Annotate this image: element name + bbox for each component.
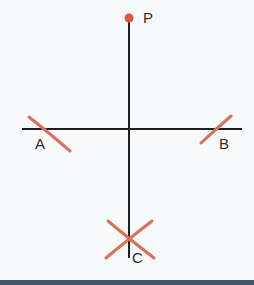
point-p bbox=[125, 14, 134, 23]
label-c: C bbox=[132, 250, 143, 265]
label-a: A bbox=[35, 136, 45, 151]
label-p: P bbox=[143, 10, 153, 25]
label-b: B bbox=[219, 136, 229, 151]
bottom-bar bbox=[0, 280, 254, 285]
